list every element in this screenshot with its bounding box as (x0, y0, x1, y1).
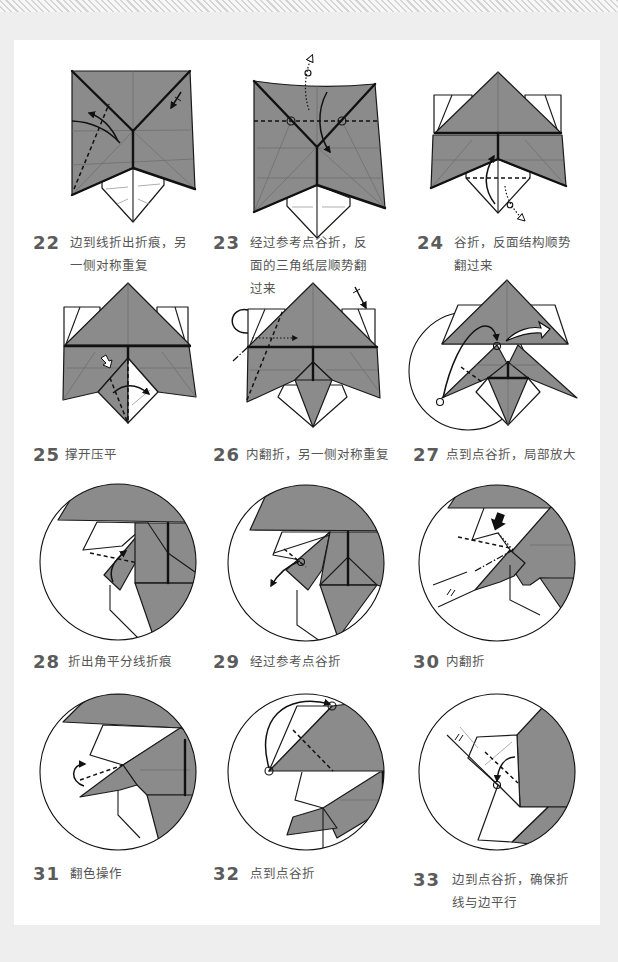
step-26-caption: 26 内翻折，另一侧对称重复 (213, 444, 406, 466)
figure-step-25 (63, 283, 196, 423)
step-30-caption: 30 内翻折 (413, 651, 596, 673)
step-number: 23 (213, 232, 250, 254)
step-description: 边到线折出折痕，另一侧对称重复 (70, 231, 197, 277)
step-32-caption: 32 点到点谷折 (213, 863, 400, 885)
step-number: 26 (213, 444, 246, 466)
step-number: 32 (213, 863, 250, 885)
step-22-caption: 22 边到线折出折痕，另一侧对称重复 (33, 232, 197, 277)
figure-step-28 (40, 478, 210, 650)
step-description: 谷折，反面结构顺势翻过来 (454, 231, 581, 277)
step-25-caption: 25 撑开压平 (33, 444, 225, 466)
figure-step-33 (419, 694, 585, 850)
step-description: 内翻折 (446, 650, 596, 673)
step-number: 31 (33, 863, 70, 885)
figure-step-30 (419, 478, 585, 641)
step-number: 28 (33, 651, 68, 673)
figure-step-27 (409, 280, 577, 430)
figure-step-26 (232, 283, 380, 427)
figure-step-23 (254, 56, 385, 238)
step-number: 24 (417, 232, 454, 254)
step-description: 经过参考点谷折 (250, 650, 400, 673)
step-description: 内翻折，另一侧对称重复 (246, 443, 406, 466)
step-27-caption: 27 点到点谷折，局部放大 (413, 444, 596, 466)
figure-step-32 (228, 694, 400, 860)
step-description: 撑开压平 (65, 443, 225, 466)
figure-step-22 (72, 71, 195, 222)
step-description: 边到点谷折，确保折线与边平行 (452, 868, 579, 914)
step-description: 折出角平分线折痕 (68, 650, 218, 673)
step-description: 点到点谷折 (250, 862, 400, 885)
figure-step-29 (228, 478, 395, 648)
step-33-caption: 33 边到点谷折，确保折线与边平行 (413, 869, 579, 914)
figure-step-31 (40, 694, 200, 850)
step-28-caption: 28 折出角平分线折痕 (33, 651, 218, 673)
step-31-caption: 31 翻色操作 (33, 863, 220, 885)
step-29-caption: 29 经过参考点谷折 (213, 651, 400, 673)
step-number: 30 (413, 651, 446, 673)
step-description: 翻色操作 (70, 862, 220, 885)
step-24-caption: 24 谷折，反面结构顺势翻过来 (417, 232, 581, 277)
step-number: 27 (413, 444, 446, 466)
step-number: 22 (33, 232, 70, 254)
step-description: 点到点谷折，局部放大 (446, 443, 596, 466)
figure-step-24 (431, 72, 566, 220)
step-description: 经过参考点谷折，反面的三角纸层顺势翻过来 (250, 231, 377, 300)
step-number: 25 (33, 444, 65, 466)
step-number: 29 (213, 651, 250, 673)
origami-diagrams (0, 0, 618, 962)
step-number: 33 (413, 869, 452, 891)
step-23-caption: 23 经过参考点谷折，反面的三角纸层顺势翻过来 (213, 232, 377, 300)
